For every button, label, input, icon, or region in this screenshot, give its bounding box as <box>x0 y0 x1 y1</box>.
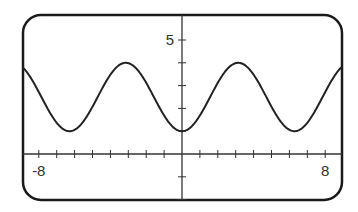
y-tick-label: 5 <box>166 31 174 48</box>
x-tick-label: 8 <box>321 162 329 179</box>
graph-window: -885 <box>0 0 358 212</box>
x-tick-label: -8 <box>32 162 45 179</box>
